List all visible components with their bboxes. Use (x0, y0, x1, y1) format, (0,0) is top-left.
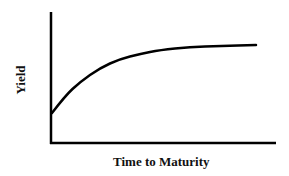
y-axis-label: Yield (13, 65, 29, 94)
yield-curve-line (52, 45, 256, 113)
x-axis-label: Time to Maturity (113, 154, 210, 170)
chart-canvas (0, 0, 289, 176)
y-axis-label-box: Yield (6, 60, 36, 100)
